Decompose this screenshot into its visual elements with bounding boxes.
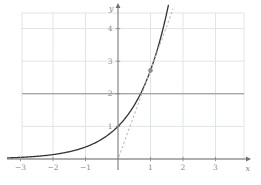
y-tick-label: 2 <box>108 89 113 98</box>
x-tick-label: 3 <box>213 163 218 172</box>
y-tick-label: 4 <box>108 24 113 33</box>
tangent-line-dotted <box>119 9 173 156</box>
grid <box>22 13 244 159</box>
y-axis-arrowhead <box>116 3 121 8</box>
exponential-plot-svg: −3−2−11231234xy <box>0 0 261 185</box>
grid-border <box>22 13 244 159</box>
x-tick-label: 2 <box>181 163 186 172</box>
x-axis-arrowhead <box>246 157 251 162</box>
x-axis-label: x <box>246 164 251 173</box>
x-tick-label: −1 <box>80 163 91 172</box>
x-tick-label: 1 <box>148 163 153 172</box>
marked-point-on-curve <box>148 68 153 73</box>
x-tick-label: −3 <box>15 163 26 172</box>
exponential-function-figure: −3−2−11231234xy <box>0 0 261 185</box>
y-axis-label: y <box>108 4 114 13</box>
x-tick-label: −2 <box>47 163 58 172</box>
y-tick-label: 1 <box>108 122 113 131</box>
tick-labels: −3−2−11231234 <box>15 24 218 172</box>
y-tick-label: 3 <box>108 57 113 66</box>
axes <box>7 3 251 170</box>
